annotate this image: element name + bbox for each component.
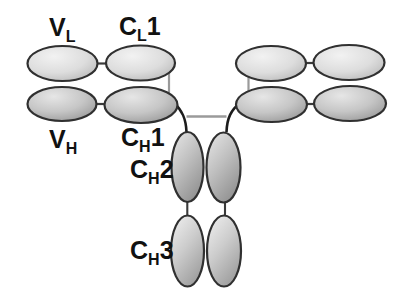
label-ch3-subscript: H (148, 251, 159, 268)
cl1-domain (106, 46, 175, 81)
right-arm-outer-upper-domain (314, 45, 385, 80)
vl-domain (28, 46, 98, 81)
label-vl: VL (49, 15, 75, 40)
ch2-right-domain (207, 133, 241, 203)
label-cl1-letter: C (119, 12, 137, 40)
label-ch2: CH2 (130, 157, 173, 182)
right-arm-inner-upper-domain (236, 46, 306, 81)
label-ch2-number: 2 (160, 155, 173, 183)
label-ch1: CH1 (121, 125, 164, 150)
label-vl-letter: V (49, 13, 65, 41)
label-vh: VH (49, 127, 77, 152)
ch3-left-domain (171, 216, 204, 287)
vh-domain (28, 87, 97, 121)
ch3-right-domain (207, 216, 241, 287)
label-ch1-subscript: H (139, 138, 150, 155)
right-arm-outer-lower-domain (314, 86, 386, 121)
label-ch3: CH3 (130, 238, 173, 263)
label-cl1-subscript: L (137, 27, 146, 44)
ch1-domain (105, 87, 178, 123)
ch2-left-domain (172, 132, 204, 202)
label-ch3-number: 3 (160, 236, 173, 264)
label-ch3-letter: C (130, 236, 148, 264)
label-ch2-letter: C (130, 155, 148, 183)
domain-ellipses (28, 45, 387, 287)
label-cl1-number: 1 (147, 12, 160, 40)
label-vh-subscript: H (66, 140, 77, 157)
label-ch1-letter: C (121, 123, 139, 151)
label-cl1: CL1 (119, 14, 160, 39)
label-ch2-subscript: H (148, 170, 159, 187)
label-vh-letter: V (49, 125, 65, 153)
label-vl-subscript: L (66, 28, 75, 45)
antibody-structure-figure: VL CL1 VH CH1 CH2 CH3 (0, 0, 408, 302)
label-ch1-number: 1 (151, 123, 164, 151)
right-arm-inner-lower-domain (236, 87, 307, 122)
